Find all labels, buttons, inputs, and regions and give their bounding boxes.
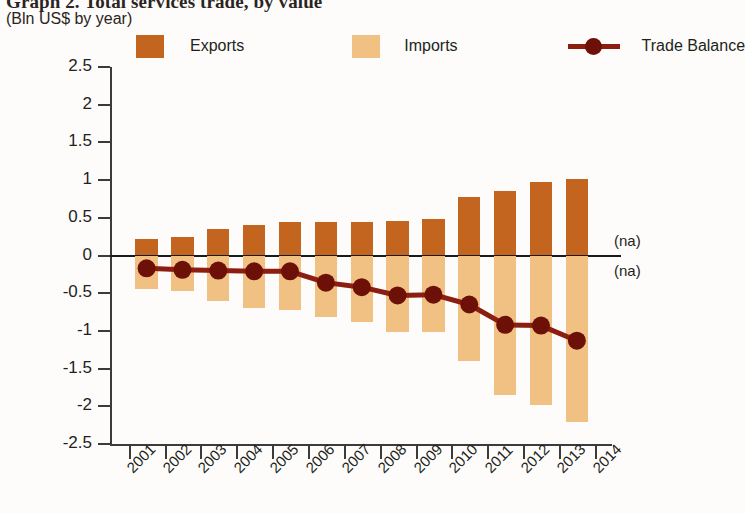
y-axis-tick — [98, 330, 110, 332]
bar-imports — [351, 256, 373, 322]
bar-exports — [171, 237, 193, 255]
y-axis-label: -2.5 — [10, 433, 92, 453]
y-axis-label: 2.5 — [10, 56, 92, 76]
y-axis-label: 1.5 — [10, 131, 92, 151]
bar-imports — [243, 256, 265, 308]
bar-imports — [566, 256, 588, 423]
y-axis-tick — [98, 141, 110, 143]
y-axis-label: -1 — [10, 320, 92, 340]
bar-imports — [207, 256, 229, 301]
bar-exports — [458, 197, 480, 255]
imports-swatch-icon — [352, 35, 380, 58]
y-axis-tick — [98, 292, 110, 294]
bar-imports — [530, 256, 552, 405]
trade-balance-marker-icon — [568, 38, 620, 54]
bar-exports — [351, 222, 373, 256]
y-axis-label: -2 — [10, 395, 92, 415]
bar-imports — [422, 256, 444, 333]
na-note-top: (na) — [614, 232, 641, 249]
plot-area: 2.521.510.50-0.5-1-1.5-2-2.5200120022003… — [110, 67, 612, 444]
y-axis-tick — [98, 66, 110, 68]
legend-label-exports: Exports — [190, 37, 244, 55]
y-axis-label: 1 — [10, 169, 92, 189]
y-axis-tick — [98, 368, 110, 370]
y-axis-tick — [98, 217, 110, 219]
bar-imports — [494, 256, 516, 395]
legend-label-imports: Imports — [404, 37, 457, 55]
bar-exports — [386, 221, 408, 256]
bar-imports — [279, 256, 301, 310]
y-axis-label: -0.5 — [10, 282, 92, 302]
exports-swatch-icon — [136, 35, 164, 58]
chart-subtitle: (Bln US$ by year) — [6, 10, 132, 28]
bar-imports — [386, 256, 408, 333]
y-axis-label: -1.5 — [10, 358, 92, 378]
legend-item-imports[interactable]: Imports — [352, 35, 457, 58]
bar-exports — [494, 191, 516, 255]
bar-imports — [171, 256, 193, 291]
bar-exports — [530, 182, 552, 255]
chart-legend: Exports Imports Trade Balance — [136, 33, 745, 59]
na-note-bottom: (na) — [614, 262, 641, 279]
y-axis-tick — [98, 255, 110, 257]
legend-label-trade-balance: Trade Balance — [642, 37, 745, 55]
y-axis-tick — [98, 405, 110, 407]
y-axis-tick — [98, 104, 110, 106]
bar-imports — [135, 256, 157, 290]
y-axis-label: 0 — [10, 245, 92, 265]
bar-exports — [243, 225, 265, 256]
legend-item-exports[interactable]: Exports — [136, 35, 244, 58]
bar-exports — [422, 219, 444, 255]
y-axis-tick — [98, 179, 110, 181]
bar-exports — [315, 222, 337, 255]
y-axis-label: 2 — [10, 94, 92, 114]
bar-exports — [135, 239, 157, 256]
y-axis-label: 0.5 — [10, 207, 92, 227]
bar-exports — [279, 222, 301, 256]
bar-imports — [458, 256, 480, 362]
legend-item-trade-balance[interactable]: Trade Balance — [568, 37, 745, 55]
bar-exports — [566, 179, 588, 255]
y-axis-tick — [98, 443, 110, 445]
bar-exports — [207, 229, 229, 255]
bar-imports — [315, 256, 337, 318]
